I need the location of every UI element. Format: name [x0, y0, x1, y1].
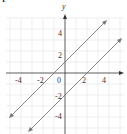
y-tick-label: 2 [58, 52, 62, 60]
x-tick-label: 2 [82, 77, 86, 85]
y-tick-label: -4 [55, 113, 62, 121]
y-axis-arrow-icon [63, 14, 67, 19]
y-tick-label: -2 [55, 93, 62, 101]
x-tick-label: -4 [15, 77, 22, 85]
figure-label: I [2, 0, 5, 4]
x-tick-label: 0 [57, 77, 61, 85]
axes [6, 14, 124, 134]
x-axis-arrow-icon [119, 71, 124, 75]
x-tick-label: -2 [37, 77, 44, 85]
y-axis-label: y [62, 3, 66, 11]
x-tick-label: 4 [102, 77, 106, 85]
coordinate-plane [0, 0, 127, 134]
y-tick-label: 4 [58, 30, 62, 38]
